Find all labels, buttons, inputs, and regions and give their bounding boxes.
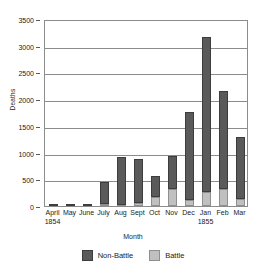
- bar-group[interactable]: [66, 19, 75, 206]
- y-axis-tick-mark: [36, 127, 40, 128]
- bar-segment-non-battle[interactable]: [66, 204, 75, 206]
- bar-group[interactable]: [83, 19, 92, 206]
- x-axis-tick-label: Jan1855: [198, 209, 214, 226]
- bar-segment-battle[interactable]: [219, 189, 228, 206]
- bar-segment-non-battle[interactable]: [219, 91, 228, 190]
- bar-group[interactable]: [185, 19, 194, 206]
- y-axis-tick-label: 3000: [18, 43, 34, 50]
- y-axis-tick-label: 0: [30, 204, 34, 211]
- bars-layer: [45, 21, 247, 206]
- y-axis-tick-mark: [36, 100, 40, 101]
- x-axis-tick-label: May: [63, 209, 76, 218]
- bar-group[interactable]: [168, 19, 177, 206]
- y-axis-tick-label: 1500: [18, 123, 34, 130]
- bar-segment-battle[interactable]: [151, 197, 160, 206]
- legend-item[interactable]: Non-Battle: [82, 250, 133, 261]
- y-axis-tick-mark: [36, 20, 40, 21]
- bar-segment-non-battle[interactable]: [49, 204, 58, 206]
- bar-group[interactable]: [100, 19, 109, 206]
- x-axis-tick-label: July: [97, 209, 109, 218]
- y-axis-tick-mark: [36, 207, 40, 208]
- bar-group[interactable]: [219, 19, 228, 206]
- bar-segment-non-battle[interactable]: [134, 159, 143, 203]
- x-axis-title: Month: [0, 233, 266, 240]
- bar-segment-battle[interactable]: [202, 192, 211, 206]
- y-axis-tick-label: 2500: [18, 70, 34, 77]
- legend-label: Battle: [165, 251, 184, 260]
- bar-group[interactable]: [202, 19, 211, 206]
- bar-segment-non-battle[interactable]: [202, 37, 211, 191]
- bar-segment-battle[interactable]: [168, 189, 177, 206]
- chart-legend: Non-BattleBattle: [0, 250, 266, 261]
- bar-segment-battle[interactable]: [134, 203, 143, 206]
- y-axis-tick-mark: [36, 180, 40, 181]
- bar-segment-non-battle[interactable]: [151, 176, 160, 197]
- legend-item[interactable]: Battle: [149, 250, 184, 261]
- bar-segment-non-battle[interactable]: [117, 157, 126, 206]
- y-axis-tick-label: 1000: [18, 150, 34, 157]
- legend-swatch-icon: [149, 250, 160, 261]
- bar-group[interactable]: [236, 19, 245, 206]
- plot-area: [44, 20, 248, 207]
- x-axis-tick-label: Nov: [165, 209, 177, 218]
- x-axis-tick-label: Dec: [182, 209, 194, 218]
- x-axis-tick-label: Aug: [114, 209, 126, 218]
- legend-swatch-icon: [82, 250, 93, 261]
- bar-segment-non-battle[interactable]: [185, 112, 194, 200]
- bar-segment-battle[interactable]: [185, 200, 194, 206]
- x-axis-tick-label: Oct: [149, 209, 160, 218]
- y-axis-tick-mark: [36, 154, 40, 155]
- x-axis-tick-label: Mar: [233, 209, 245, 218]
- bar-segment-non-battle[interactable]: [168, 156, 177, 189]
- x-axis-tick-label: Sept: [130, 209, 144, 218]
- y-axis-tick-label: 2000: [18, 97, 34, 104]
- bar-segment-battle[interactable]: [236, 199, 245, 206]
- bar-group[interactable]: [151, 19, 160, 206]
- bar-group[interactable]: [49, 19, 58, 206]
- bar-group[interactable]: [134, 19, 143, 206]
- bar-segment-non-battle[interactable]: [100, 182, 109, 204]
- y-axis-tick-mark: [36, 47, 40, 48]
- legend-label: Non-Battle: [98, 251, 133, 260]
- y-axis-tick-label: 500: [22, 177, 34, 184]
- x-axis-tick-label: June: [79, 209, 94, 218]
- x-axis-tick-label: Feb: [216, 209, 228, 218]
- y-axis-tick-group: 0500100015002000250030003500: [0, 20, 40, 207]
- x-axis-tick-label: April1854: [45, 209, 61, 226]
- bar-segment-non-battle[interactable]: [236, 137, 245, 198]
- x-axis-tick-group: April1854MayJuneJulyAugSeptOctNovDecJan1…: [44, 209, 248, 233]
- y-axis-tick-mark: [36, 73, 40, 74]
- bar-group[interactable]: [117, 19, 126, 206]
- bar-segment-non-battle[interactable]: [83, 204, 92, 206]
- y-axis-tick-label: 3500: [18, 17, 34, 24]
- crimean-war-deaths-chart: Deaths 0500100015002000250030003500 Apri…: [0, 0, 266, 276]
